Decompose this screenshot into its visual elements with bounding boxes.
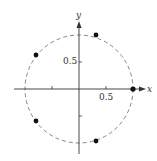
root-point-2: [34, 53, 39, 58]
root-point-3: [34, 119, 39, 124]
x-axis-label: x: [147, 84, 152, 94]
x-axis-arrow-icon: [139, 87, 146, 92]
y-axis-label: y: [75, 10, 82, 20]
root-point-4: [94, 139, 99, 144]
roots-of-unity-diagram: y x 0.5 0.5: [0, 0, 157, 161]
diagram-canvas: y x 0.5 0.5: [0, 0, 157, 161]
x-tick-label: 0.5: [99, 92, 114, 102]
y-tick-label: 0.5: [63, 56, 78, 66]
root-point-1: [94, 33, 99, 38]
y-axis-arrow-icon: [77, 21, 82, 28]
root-point-0: [130, 86, 135, 91]
